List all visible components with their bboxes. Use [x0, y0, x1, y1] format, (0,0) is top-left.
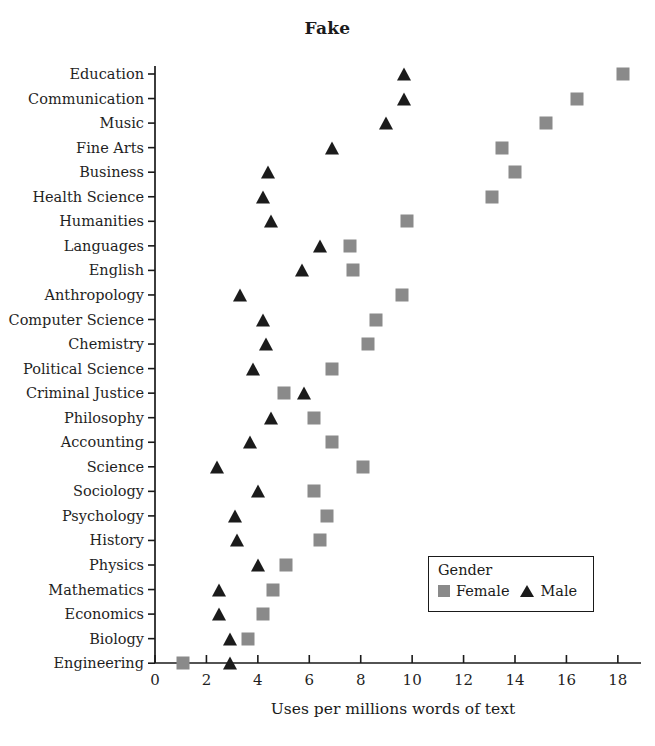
data-point-female: [485, 190, 498, 203]
data-point-female: [326, 436, 339, 449]
scatter-chart: Fake EducationCommunicationMusicFine Art…: [0, 0, 655, 746]
legend-entry-male[interactable]: Male: [520, 583, 577, 599]
data-point-male: [251, 485, 265, 498]
data-point-female: [241, 632, 254, 645]
square-marker-icon: [438, 585, 450, 597]
data-point-female: [177, 657, 190, 670]
data-point-male: [295, 264, 309, 277]
data-point-male: [256, 313, 270, 326]
data-point-male: [223, 632, 237, 645]
data-point-female: [539, 117, 552, 130]
data-point-female: [509, 166, 522, 179]
data-point-male: [212, 608, 226, 621]
data-point-female: [321, 509, 334, 522]
data-point-female: [395, 288, 408, 301]
data-point-male: [397, 92, 411, 105]
data-point-female: [496, 141, 509, 154]
data-point-male: [264, 215, 278, 228]
legend-title: Gender: [438, 562, 584, 578]
data-point-female: [347, 264, 360, 277]
data-point-female: [308, 485, 321, 498]
data-point-female: [401, 215, 414, 228]
x-axis-title: Uses per millions words of text: [271, 700, 515, 718]
data-point-male: [243, 436, 257, 449]
data-point-female: [267, 583, 280, 596]
data-point-male: [313, 239, 327, 252]
data-point-male: [325, 141, 339, 154]
data-markers: [0, 0, 655, 746]
data-point-male: [246, 362, 260, 375]
legend-entry-female[interactable]: Female: [438, 583, 509, 599]
data-point-male: [297, 387, 311, 400]
data-point-male: [251, 559, 265, 572]
data-point-female: [617, 68, 630, 81]
legend-label: Male: [540, 583, 577, 599]
data-point-male: [264, 411, 278, 424]
data-point-female: [313, 534, 326, 547]
data-point-female: [344, 239, 357, 252]
data-point-male: [212, 583, 226, 596]
data-point-male: [261, 166, 275, 179]
data-point-male: [223, 657, 237, 670]
triangle-marker-icon: [520, 585, 534, 597]
data-point-female: [326, 362, 339, 375]
data-point-female: [357, 460, 370, 473]
legend: Gender FemaleMale: [428, 556, 594, 612]
data-point-female: [362, 338, 375, 351]
data-point-female: [308, 411, 321, 424]
data-point-female: [280, 559, 293, 572]
data-point-male: [233, 288, 247, 301]
data-point-male: [256, 190, 270, 203]
data-point-female: [570, 92, 583, 105]
data-point-female: [277, 387, 290, 400]
data-point-female: [257, 608, 270, 621]
data-point-male: [228, 509, 242, 522]
data-point-female: [370, 313, 383, 326]
data-point-male: [397, 68, 411, 81]
data-point-male: [259, 338, 273, 351]
data-point-male: [230, 534, 244, 547]
data-point-male: [379, 117, 393, 130]
data-point-male: [210, 460, 224, 473]
legend-label: Female: [456, 583, 509, 599]
